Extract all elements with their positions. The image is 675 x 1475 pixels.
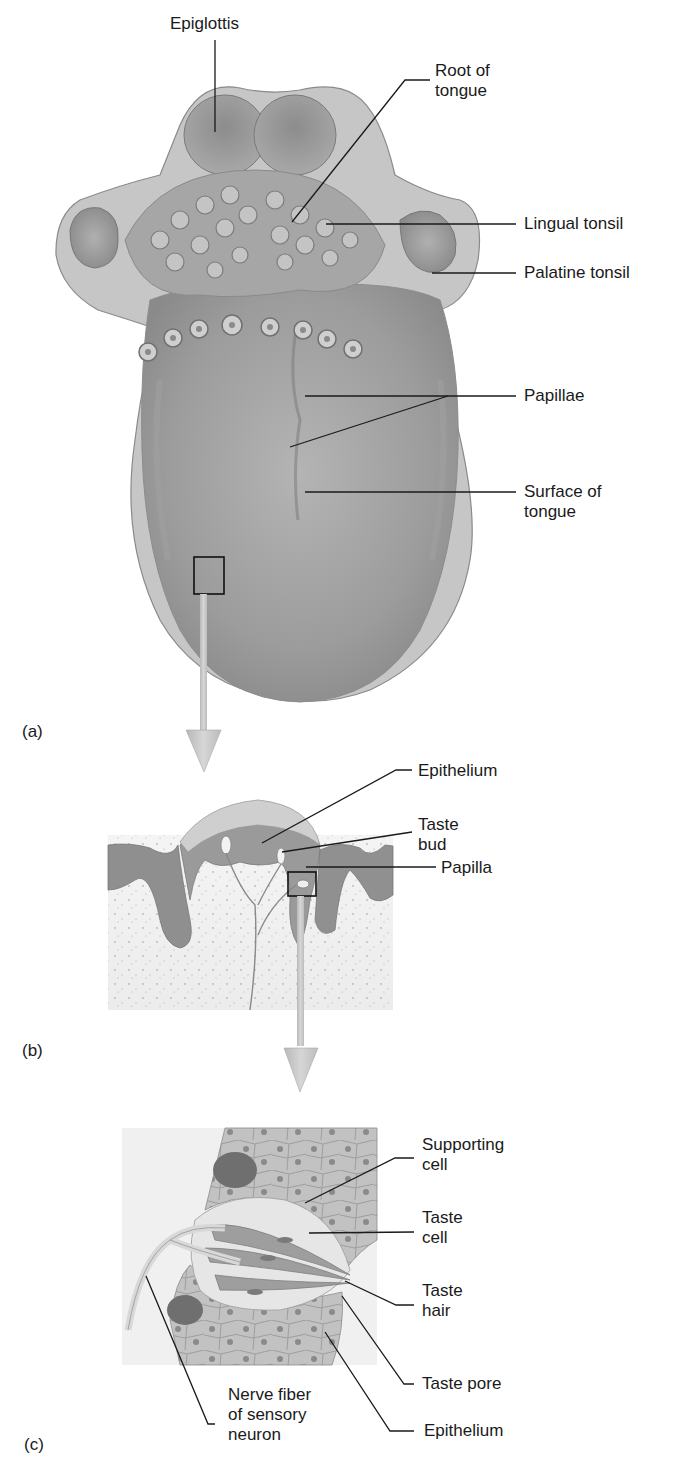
panel-letter-b: (b) [22,1041,43,1061]
label-papillae: Papillae [524,386,585,406]
panel-letter-a: (a) [22,722,43,742]
papilla-illustration [108,800,393,1010]
label-lingual-tonsil: Lingual tonsil [524,214,623,234]
label-taste-hair: Taste hair [422,1281,463,1321]
label-papilla: Papilla [441,858,492,878]
tongue-illustration [56,87,480,702]
panel-letter-c: (c) [24,1435,44,1455]
label-root-of-tongue: Root of tongue [435,61,490,101]
tongue-taste-diagram: Epiglottis Root of tongue Lingual tonsil… [0,0,675,1475]
label-surface-of-tongue: Surface of tongue [524,482,602,522]
label-epithelium-b: Epithelium [418,761,497,781]
label-epiglottis: Epiglottis [170,14,239,34]
label-nerve-fiber: Nerve fiber of sensory neuron [228,1385,311,1445]
label-taste-cell: Taste cell [422,1208,463,1248]
taste-bud-illustration [122,1128,377,1365]
label-palatine-tonsil: Palatine tonsil [524,263,630,283]
label-epithelium-c: Epithelium [424,1421,503,1441]
label-supporting-cell: Supporting cell [422,1135,504,1175]
label-taste-pore: Taste pore [422,1374,501,1394]
label-taste-bud: Taste bud [418,815,459,855]
